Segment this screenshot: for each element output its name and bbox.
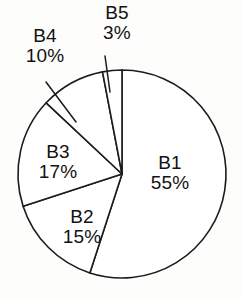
- pie-label-b2-name: B2: [45, 207, 119, 227]
- pie-label-b2-value: 15%: [45, 227, 119, 247]
- pie-label-b5: B5 3%: [80, 3, 154, 43]
- pie-label-b3: B3 17%: [21, 142, 95, 182]
- pie-label-b4-name: B4: [8, 26, 82, 46]
- pie-label-b3-name: B3: [21, 142, 95, 162]
- pie-label-b1-name: B1: [133, 153, 207, 173]
- pie-label-b3-value: 17%: [21, 162, 95, 182]
- pie-label-b5-name: B5: [80, 3, 154, 23]
- pie-label-b1-value: 55%: [133, 173, 207, 193]
- pie-label-b1: B1 55%: [133, 153, 207, 193]
- pie-label-b2: B2 15%: [45, 207, 119, 247]
- pie-label-b5-value: 3%: [80, 23, 154, 43]
- pie-label-b4-value: 10%: [8, 46, 82, 66]
- pie-label-b4: B4 10%: [8, 26, 82, 66]
- pie-chart-figure: B1 55% B2 15% B3 17% B4 10% B5 3%: [0, 0, 242, 300]
